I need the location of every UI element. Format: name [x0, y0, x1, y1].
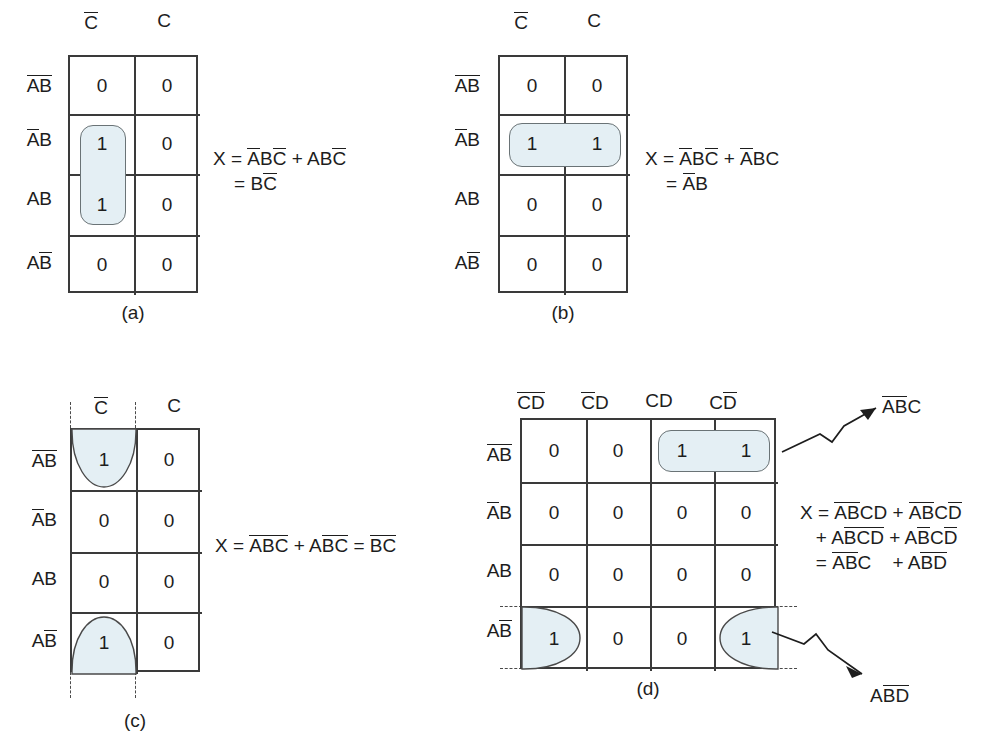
panel-c-col-header-0: C — [70, 395, 132, 419]
table-cell: 0 — [586, 544, 650, 606]
panel-d-equation-line-0: X = ABCD + ABCD — [800, 500, 962, 525]
table-cell: 0 — [714, 544, 778, 606]
panel-a-equation-line-0: X = ABC + ABC — [213, 146, 346, 171]
panel-d-col-header-3: CD — [692, 390, 754, 414]
panel-d-caption: (d) — [615, 678, 681, 700]
panel-d-row-header-2: AB — [460, 560, 512, 582]
panel-c-wrap-dash-top-mid — [135, 402, 136, 428]
panel-d-equation: X = ABCD + ABCD + ABCD + ABCD = ABC + AB… — [800, 500, 962, 575]
panel-b-equation-line-1: = AB — [645, 171, 779, 196]
table-cell: 0 — [650, 544, 714, 606]
table-cell: 0 — [72, 552, 136, 612]
panel-a-caption: (a) — [100, 302, 166, 324]
table-cell: 0 — [586, 606, 650, 671]
panel-d-equation-line-2: = ABC + ABD — [800, 550, 962, 575]
panel-c-row-header-2: AB — [5, 568, 57, 590]
table-cell: 0 — [714, 482, 778, 544]
table-cell: 0 — [522, 482, 586, 544]
table-cell: 0 — [564, 174, 630, 235]
table-cell: 0 — [586, 420, 650, 482]
table-cell: 0 — [70, 235, 134, 295]
panel-a-grid: 0 0 1 0 1 0 0 0 — [68, 55, 198, 293]
table-cell: 1 — [500, 114, 564, 174]
panel-d-equation-line-1: + ABCD + ABCD — [800, 525, 962, 550]
panel-d-col-header-0: CD — [500, 390, 562, 414]
panel-d-col-header-2: CD — [628, 390, 690, 412]
table-cell: 0 — [522, 544, 586, 606]
panel-b-col-header-0: C — [490, 10, 552, 34]
panel-d-row-header-0: AB — [460, 442, 512, 466]
table-cell: 0 — [72, 490, 136, 552]
panel-b-col-header-1: C — [563, 10, 625, 32]
panel-d-annotation-arrow-bottom — [770, 610, 920, 690]
panel-c-caption: (c) — [102, 710, 168, 732]
panel-c-wrap-dash-top-left — [70, 402, 71, 428]
panel-c-row-header-0: AB — [5, 448, 57, 472]
kmap-panel-c: C C AB AB AB AB 1 0 0 0 0 0 1 0 X = ABC … — [0, 370, 470, 752]
panel-a-col-header-0: C — [60, 10, 122, 34]
table-cell: 0 — [136, 612, 202, 674]
kmap-panel-b: C C AB AB AB AB 0 0 1 1 0 0 0 0 X = ABC … — [420, 0, 880, 340]
table-cell: 0 — [564, 57, 630, 114]
table-cell: 1 — [70, 114, 134, 174]
table-cell: 0 — [500, 174, 564, 235]
table-cell: 0 — [650, 606, 714, 671]
panel-d-col-header-1: CD — [564, 390, 626, 414]
kmap-panel-a: C C AB AB AB AB 0 0 1 0 1 0 0 0 X = ABC … — [0, 0, 420, 340]
panel-c-row-header-1: AB — [5, 507, 57, 531]
panel-c-row-header-3: AB — [5, 628, 57, 652]
table-cell: 1 — [564, 114, 630, 174]
table-cell: 0 — [586, 482, 650, 544]
panel-b-row-header-0: AB — [428, 73, 480, 97]
table-cell: 0 — [134, 174, 200, 235]
panel-b-equation: X = ABC + ABC = AB — [645, 146, 779, 196]
table-cell: 0 — [500, 57, 564, 114]
table-cell: 1 — [714, 420, 778, 482]
panel-b-equation-line-0: X = ABC + ABC — [645, 146, 779, 171]
panel-d-row-header-1: AB — [460, 500, 512, 524]
panel-a-equation-line-1: = BC — [213, 171, 346, 196]
table-cell: 0 — [134, 235, 200, 295]
table-cell: 0 — [564, 235, 630, 295]
panel-a-row-header-1: AB — [0, 127, 52, 151]
table-cell: 0 — [136, 430, 202, 490]
panel-c-wrap-dash-bottom-mid — [135, 672, 136, 698]
panel-b-row-header-1: AB — [428, 127, 480, 151]
table-cell: 0 — [500, 235, 564, 295]
kmap-panel-d: CD CD CD CD AB AB AB AB 0 0 1 1 0 0 0 0 … — [470, 370, 987, 752]
table-cell: 0 — [522, 420, 586, 482]
panel-a-row-header-0: AB — [0, 73, 52, 97]
panel-a-col-header-1: C — [133, 10, 195, 32]
panel-a-equation: X = ABC + ABC = BC — [213, 146, 346, 196]
panel-d-wrap-dash-bottom-left — [500, 668, 522, 669]
table-cell: 0 — [650, 482, 714, 544]
panel-c-grid: 1 0 0 0 0 0 1 0 — [70, 428, 200, 672]
panel-c-col-header-1: C — [143, 395, 205, 417]
panel-d-row-header-3: AB — [460, 618, 512, 642]
table-cell: 0 — [136, 552, 202, 612]
table-cell: 0 — [134, 114, 200, 174]
panel-d-wrap-dash-top-left — [500, 606, 522, 607]
table-cell: 1 — [650, 420, 714, 482]
table-cell: 1 — [70, 174, 134, 235]
panel-b-grid: 0 0 1 1 0 0 0 0 — [498, 55, 628, 293]
panel-c-wrap-dash-bottom-left — [70, 672, 71, 698]
table-cell: 0 — [134, 57, 200, 114]
panel-d-annotation-arrow-top — [780, 390, 930, 460]
panel-c-equation-line-0: X = ABC + ABC = BC — [215, 533, 396, 558]
panel-d-grid: 0 0 1 1 0 0 0 0 0 0 0 0 1 0 0 1 — [520, 418, 776, 669]
table-cell: 0 — [70, 57, 134, 114]
panel-b-caption: (b) — [530, 302, 596, 324]
panel-b-row-header-2: AB — [428, 188, 480, 210]
panel-a-row-header-3: AB — [0, 250, 52, 274]
table-cell: 1 — [714, 606, 778, 671]
panel-a-row-header-2: AB — [0, 188, 52, 210]
table-cell: 1 — [72, 430, 136, 490]
panel-b-row-header-3: AB — [428, 250, 480, 274]
table-cell: 0 — [136, 490, 202, 552]
table-cell: 1 — [522, 606, 586, 671]
panel-c-equation: X = ABC + ABC = BC — [215, 533, 396, 558]
table-cell: 1 — [72, 612, 136, 674]
